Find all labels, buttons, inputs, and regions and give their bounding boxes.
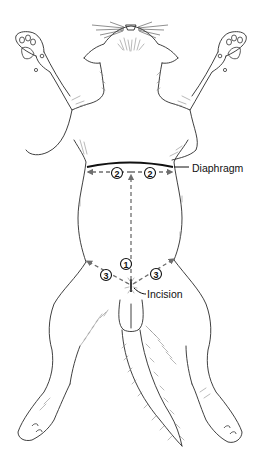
cat-head: [84, 22, 178, 63]
step-marker-3-right: 3: [151, 269, 162, 280]
svg-text:3: 3: [103, 271, 108, 281]
left-hind-leg: [18, 262, 108, 441]
svg-text:3: 3: [153, 270, 158, 280]
incision-leader-line: [134, 288, 146, 294]
incision-mark: [125, 278, 137, 293]
svg-text:2: 2: [147, 169, 152, 179]
left-front-paw-pads: [20, 35, 44, 72]
scrotum: [119, 300, 143, 332]
step-marker-2-right: 2: [145, 168, 156, 179]
svg-text:2: 2: [114, 169, 119, 179]
step-marker-1: 1: [121, 259, 132, 270]
svg-text:1: 1: [123, 260, 128, 270]
diaphragm-line: [87, 163, 173, 168]
diaphragm-label: Diaphragm: [192, 163, 243, 174]
step-marker-2-left: 2: [112, 168, 123, 179]
step-marker-3-left: 3: [101, 270, 112, 281]
right-front-paw-pads: [218, 35, 242, 72]
tail: [122, 330, 184, 446]
cat-dissection-diagram: 1 2 2 3 3: [0, 0, 262, 463]
incision-label: Incision: [147, 289, 183, 300]
